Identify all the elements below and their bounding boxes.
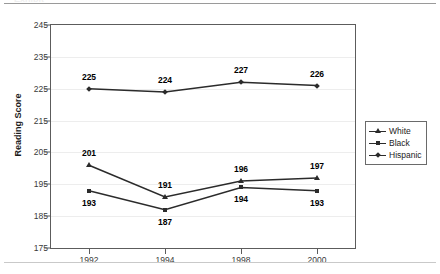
data-point-label: 196 [219,164,263,174]
data-point-label: 193 [67,198,111,208]
clipped-title-text: Exhibit [14,0,44,4]
plot-area [50,24,356,249]
x-axis-tick-label: 1998 [211,255,271,265]
bottom-divider-rule [4,262,436,263]
legend-item-white[interactable]: White [369,125,422,137]
legend-marker-icon [369,126,386,136]
series-line-hispanic [89,82,317,92]
data-point-label: 227 [219,65,263,75]
legend-item-black[interactable]: Black [369,137,422,149]
x-axis-tick-label: 1992 [59,255,119,265]
chart-page: Exhibit Reading Score 245235225215205195… [0,0,440,274]
y-axis-tick-label: 185 [8,211,48,221]
data-point-marker [87,189,91,193]
data-point-label: 193 [295,198,339,208]
y-axis-tick-label: 205 [8,147,48,157]
line-chart: Reading Score 245235225215205195185175 1… [0,12,440,257]
series-line-black [89,188,317,210]
data-point-marker [238,178,244,183]
y-axis-tick-label: 225 [8,84,48,94]
data-point-marker [314,175,320,180]
y-axis-tick-label: 235 [8,52,48,62]
data-point-label: 191 [143,180,187,190]
data-point-marker [315,189,319,193]
series-lines [51,25,355,248]
data-point-marker [163,208,167,212]
x-axis-tick-mark [89,249,90,254]
data-point-label: 197 [295,161,339,171]
legend-marker-icon [369,150,386,160]
top-divider-rule [4,3,436,4]
x-axis-tick-label: 2000 [287,255,347,265]
data-point-marker [239,185,243,189]
legend-marker-icon [369,138,386,148]
data-point-marker [86,162,92,167]
y-axis-tick-label: 195 [8,179,48,189]
x-axis-tick-label: 1994 [135,255,195,265]
y-axis-tick-label: 245 [8,20,48,30]
data-point-label: 194 [219,194,263,204]
data-point-label: 187 [143,217,187,227]
data-point-label: 224 [143,75,187,85]
data-point-marker [162,194,168,199]
legend-item-hispanic[interactable]: Hispanic [369,149,422,161]
legend-label: White [389,126,411,136]
x-axis-tick-mark [165,249,166,254]
y-axis-tick-label: 215 [8,116,48,126]
legend-label: Black [389,138,410,148]
data-point-label: 225 [67,72,111,82]
legend-label: Hispanic [389,150,422,160]
chart-legend: WhiteBlackHispanic [365,121,427,165]
x-axis-tick-mark [317,249,318,254]
data-point-label: 201 [67,148,111,158]
series-line-white [89,165,317,197]
x-axis-tick-mark [241,249,242,254]
y-axis-tick-label: 175 [8,243,48,253]
data-point-label: 226 [295,69,339,79]
